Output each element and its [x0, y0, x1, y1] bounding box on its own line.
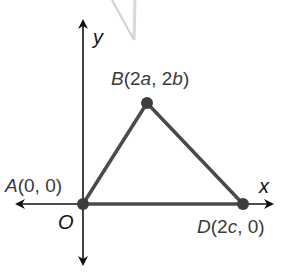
segment-AB	[83, 103, 147, 204]
point-B	[141, 97, 153, 109]
label-D-close: )	[258, 216, 264, 237]
label-A-y: 0	[45, 175, 56, 196]
label-B-open: (2	[124, 68, 141, 89]
triangle-ABD	[83, 103, 243, 204]
label-D-sep: , 0	[237, 216, 258, 237]
label-A-letter: A	[4, 175, 18, 196]
label-B-xvar: a	[141, 68, 152, 89]
label-D: D(2c, 0)	[197, 216, 265, 237]
label-A-sep: ,	[35, 175, 46, 196]
segment-BD	[147, 103, 243, 204]
label-B: B(2a, 2b)	[111, 68, 189, 89]
label-B-yvar: b	[172, 68, 183, 89]
label-D-xvar: c	[228, 216, 238, 237]
background-artifact	[112, 0, 135, 40]
point-A	[77, 198, 89, 210]
label-D-open: (2	[211, 216, 228, 237]
diagram-canvas: y x O A(0, 0) B(2a, 2b) D(2c, 0)	[0, 0, 298, 276]
label-B-close: )	[183, 68, 189, 89]
label-D-letter: D	[197, 216, 211, 237]
label-B-sep: , 2	[151, 68, 172, 89]
x-axis-label: x	[258, 175, 270, 197]
label-A-x: 0	[24, 175, 35, 196]
label-A: A(0, 0)	[4, 175, 62, 196]
label-B-letter: B	[111, 68, 124, 89]
label-A-close: )	[56, 175, 62, 196]
point-D	[237, 198, 249, 210]
y-axis-label: y	[91, 26, 104, 48]
origin-label: O	[58, 211, 74, 233]
